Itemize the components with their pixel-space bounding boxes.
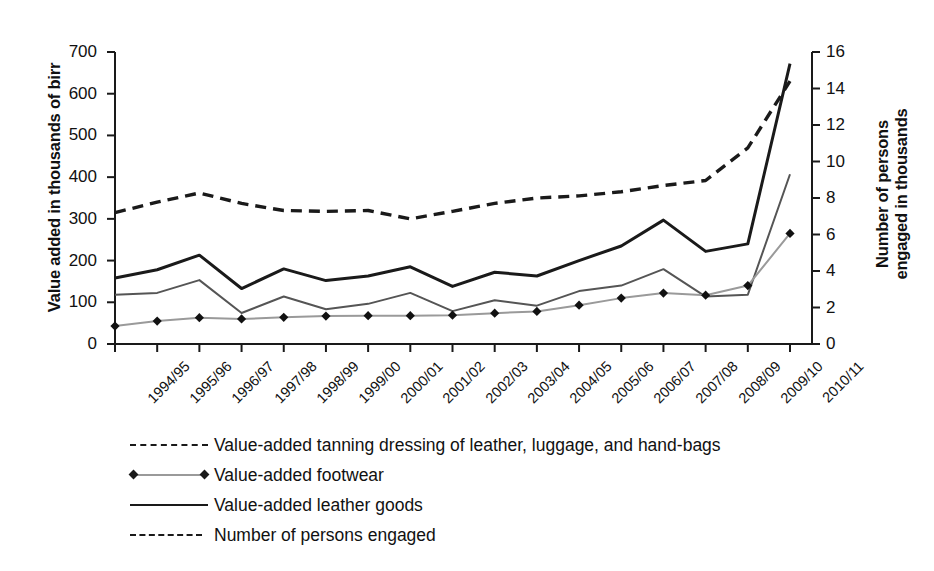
legend-label-2: Value-added leather goods — [214, 495, 423, 515]
legend-item-2[interactable]: Value-added leather goods — [130, 490, 890, 520]
legend-grey-line — [134, 474, 204, 476]
series-marker-3 — [321, 311, 330, 320]
series-line-1 — [115, 64, 790, 289]
y-axis-left-ticklabel: 400 — [45, 168, 97, 185]
y-axis-right-ticklabel: 10 — [826, 153, 866, 170]
series-marker-3 — [490, 309, 499, 318]
series-marker-3 — [532, 307, 541, 316]
series-marker-3 — [406, 311, 415, 320]
series-marker-3 — [448, 311, 457, 320]
y-axis-right-ticklabel: 4 — [826, 262, 866, 279]
y-axis-right-ticklabel: 12 — [826, 116, 866, 133]
series-marker-3 — [237, 314, 246, 323]
legend-label-1: Value-added footwear — [214, 465, 384, 485]
y-axis-left-ticklabel: 500 — [45, 126, 97, 143]
series-line-2 — [115, 174, 790, 313]
legend-solid-line — [130, 504, 208, 506]
legend-dashed-wide-line — [130, 444, 208, 446]
chart-figure: Value added in thousands of birr Number … — [0, 0, 934, 571]
y-axis-right-ticklabel: 0 — [826, 335, 866, 352]
legend-item-0[interactable]: Value-added tanning dressing of leather,… — [130, 430, 890, 460]
y-axis-right-ticklabel: 16 — [826, 43, 866, 60]
series-marker-3 — [195, 313, 204, 322]
y-axis-left-ticklabel: 600 — [45, 85, 97, 102]
series-marker-3 — [153, 316, 162, 325]
legend-dashed-small-line — [130, 534, 202, 536]
legend-item-1[interactable]: Value-added footwear — [130, 460, 890, 490]
y-axis-right-ticklabel: 14 — [826, 80, 866, 97]
legend-item-3[interactable]: Number of persons engaged — [130, 520, 890, 550]
y-axis-left-ticklabel: 0 — [45, 335, 97, 352]
y-axis-right-ticklabel: 8 — [826, 189, 866, 206]
y-axis-left-ticklabel: 200 — [45, 252, 97, 269]
y-axis-right-ticklabel: 2 — [826, 299, 866, 316]
y-axis-right-ticklabel: 6 — [826, 226, 866, 243]
legend-label-0: Value-added tanning dressing of leather,… — [214, 435, 721, 455]
chart-legend: Value-added tanning dressing of leather,… — [130, 430, 890, 550]
y-axis-left-ticklabel: 300 — [45, 210, 97, 227]
y-axis-left-ticklabel: 100 — [45, 293, 97, 310]
legend-label-3: Number of persons engaged — [214, 525, 436, 545]
series-marker-3 — [110, 321, 119, 330]
legend-diamond-icon — [129, 470, 139, 480]
series-marker-3 — [364, 311, 373, 320]
series-marker-3 — [279, 313, 288, 322]
legend-key-dashed-small-icon — [130, 527, 208, 543]
legend-diamond-icon — [200, 470, 210, 480]
series-line-0 — [115, 81, 790, 219]
series-marker-3 — [659, 289, 668, 298]
legend-key-solid-icon — [130, 497, 208, 513]
y-axis-left-ticklabel: 700 — [45, 43, 97, 60]
series-marker-3 — [574, 301, 583, 310]
legend-key-marker-line-icon — [130, 467, 208, 483]
series-marker-3 — [617, 294, 626, 303]
legend-key-dashed-wide-icon — [130, 437, 208, 453]
series-marker-3 — [701, 291, 710, 300]
